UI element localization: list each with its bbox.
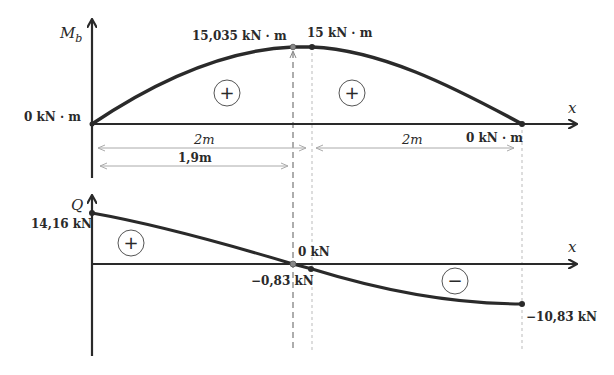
- moment-diagram: Mb x 0 kN · m 15,035 kN · m 15 kN · m 0 …: [24, 20, 577, 178]
- shear-diagram: Q x 14,16̄ kN 0 kN −0,83̄ kN −10,83̄ kN …: [31, 196, 597, 356]
- shear-zero-point: [290, 261, 296, 267]
- shear-end-value: −10,83̄ kN: [526, 310, 597, 324]
- shear-start-point: [89, 210, 95, 216]
- svg-text:+: +: [123, 232, 138, 253]
- dim-peak-1-9m-label: 1,9m: [178, 151, 212, 165]
- moment-sign-right: +: [339, 80, 365, 106]
- svg-text:−: −: [447, 270, 462, 291]
- moment-curve: [92, 47, 522, 124]
- moment-peak-value: 15,035 kN · m: [192, 29, 287, 43]
- shear-sign-positive: +: [118, 230, 144, 256]
- shear-zero-label: 0 kN: [298, 245, 330, 259]
- moment-x-label: x: [568, 99, 577, 117]
- moment-end-value: 0 kN · m: [466, 131, 523, 145]
- beam-diagrams: Mb x 0 kN · m 15,035 kN · m 15 kN · m 0 …: [0, 0, 614, 375]
- shear-sign-negative: −: [442, 268, 468, 294]
- moment-sign-left: +: [214, 80, 240, 106]
- shear-jump-value: −0,83̄ kN: [251, 274, 314, 288]
- shear-start-value: 14,16̄ kN: [31, 217, 92, 231]
- svg-text:+: +: [219, 82, 234, 103]
- moment-axis-label: Mb: [59, 24, 82, 45]
- moment-peak-point: [290, 44, 296, 50]
- moment-start-point: [90, 122, 95, 127]
- svg-text:+: +: [344, 82, 359, 103]
- shear-axis-label: Q: [71, 196, 83, 214]
- shear-jump-point: [308, 266, 314, 272]
- shear-curve-negative: [312, 269, 522, 304]
- shear-x-label: x: [568, 238, 577, 256]
- moment-15-point: [309, 44, 315, 50]
- moment-end-point: [519, 121, 525, 127]
- moment-point-value: 15 kN · m: [307, 26, 373, 40]
- dim-right-2m-label: 2m: [401, 132, 423, 147]
- dim-left-2m-label: 2m: [193, 132, 215, 147]
- moment-start-value: 0 kN · m: [24, 110, 81, 124]
- shear-end-point: [519, 301, 525, 307]
